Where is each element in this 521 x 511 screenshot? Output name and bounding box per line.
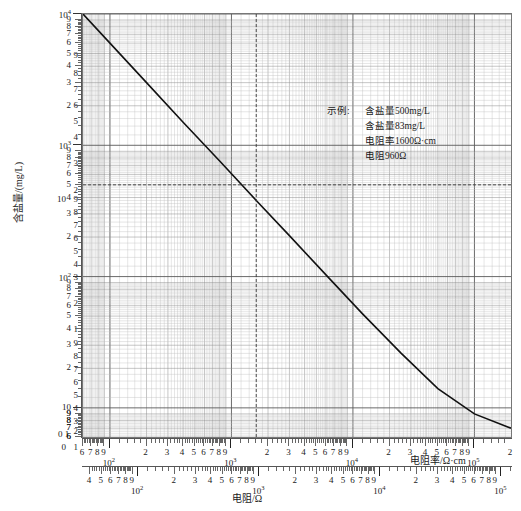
axis-tick	[78, 334, 82, 335]
axis-tick	[177, 439, 178, 443]
axis-tick	[470, 467, 471, 471]
axis-tick	[78, 158, 82, 159]
axis-tick	[78, 71, 82, 72]
axis-tick	[78, 298, 82, 299]
axis-tick	[78, 294, 82, 295]
annotation-label	[327, 134, 365, 149]
axis-tick	[78, 78, 82, 79]
axis-tick	[78, 283, 82, 284]
axis-tick	[295, 439, 296, 443]
axis-tick	[78, 291, 82, 292]
axis-tick	[483, 439, 484, 443]
axis-tick	[78, 32, 82, 33]
y-axis-secondary-tick-label: 10	[57, 195, 66, 204]
x-axis-bottom-ruler	[82, 466, 512, 476]
axis-tick	[78, 226, 82, 227]
axis-tick	[137, 467, 138, 476]
x-axis-top-title: 电阻率/Ω·cm	[410, 452, 466, 467]
axis-tick	[457, 467, 458, 471]
axis-tick	[75, 213, 81, 214]
axis-tick	[240, 439, 241, 443]
axis-tick	[78, 265, 82, 266]
axis-tick	[306, 439, 307, 443]
axis-tick	[349, 467, 350, 471]
axis-tick	[78, 317, 82, 318]
axis-tick	[198, 439, 199, 443]
axis-tick	[75, 236, 81, 237]
axis-tick	[495, 467, 496, 474]
x-axis-decade-label: 104	[373, 483, 385, 496]
axis-tick	[78, 357, 82, 358]
axis-tick	[78, 417, 82, 418]
axis-tick	[78, 299, 82, 300]
axis-tick	[213, 467, 214, 471]
axis-tick	[78, 46, 82, 47]
axis-tick	[75, 33, 81, 34]
axis-tick	[468, 439, 469, 446]
axis-tick	[189, 439, 190, 443]
axis-tick	[207, 467, 208, 471]
axis-tick	[75, 65, 81, 66]
axis-tick	[78, 309, 82, 310]
axis-tick	[283, 467, 284, 471]
axis-tick	[78, 217, 82, 218]
axis-tick	[134, 439, 135, 443]
axis-tick	[78, 256, 82, 257]
axis-tick	[389, 439, 390, 446]
axis-tick	[179, 439, 180, 443]
axis-tick	[78, 177, 82, 178]
example-annotation: 示例:含盐量500mg/L含盐量83mg/L电阻率1600Ω·cm电阻960Ω	[327, 104, 436, 164]
axis-tick	[196, 439, 197, 443]
axis-tick	[78, 325, 82, 326]
axis-tick	[444, 467, 445, 471]
axis-tick	[311, 439, 312, 443]
axis-tick	[78, 203, 82, 204]
axis-tick	[285, 439, 286, 443]
axis-tick	[331, 467, 332, 474]
axis-tick	[75, 26, 81, 27]
axis-tick	[107, 467, 108, 471]
axis-tick	[304, 467, 305, 471]
axis-tick	[78, 388, 82, 389]
axis-tick	[379, 467, 380, 476]
axis-tick	[75, 420, 81, 421]
axis-tick	[78, 50, 82, 51]
axis-tick	[78, 311, 82, 312]
axis-tick	[78, 380, 82, 381]
axis-tick	[78, 175, 82, 176]
axis-tick	[78, 99, 82, 100]
axis-tick	[78, 290, 82, 291]
axis-tick	[78, 242, 82, 243]
axis-tick	[210, 467, 211, 474]
axis-tick	[78, 182, 82, 183]
axis-tick	[75, 157, 81, 158]
axis-tick	[406, 439, 407, 443]
axis-tick	[504, 439, 505, 443]
axis-tick	[78, 154, 82, 155]
axis-tick	[78, 152, 82, 153]
axis-tick	[78, 426, 82, 427]
axis-tick	[313, 439, 314, 443]
axis-tick	[441, 439, 442, 443]
axis-tick	[162, 467, 163, 471]
axis-tick	[78, 286, 82, 287]
axis-tick	[78, 24, 82, 25]
axis-tick	[468, 467, 469, 471]
axis-tick	[491, 439, 492, 443]
curve-layer	[83, 14, 511, 437]
axis-tick	[450, 467, 451, 471]
axis-tick	[75, 367, 81, 368]
axis-tick	[78, 191, 82, 192]
axis-tick	[94, 467, 95, 471]
axis-tick	[99, 467, 100, 471]
axis-tick	[89, 467, 90, 474]
axis-tick	[78, 179, 82, 180]
axis-tick	[420, 439, 421, 443]
axis-tick	[75, 344, 81, 345]
annotation-value: 含盐量500mg/L	[365, 104, 430, 119]
axis-tick	[78, 421, 82, 422]
axis-tick	[200, 439, 201, 443]
axis-tick	[78, 320, 82, 321]
axis-tick	[352, 439, 353, 448]
axis-tick	[462, 467, 463, 471]
